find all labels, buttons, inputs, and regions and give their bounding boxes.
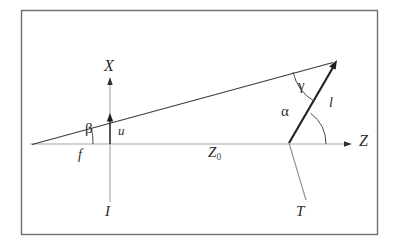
u-vector-arrowhead: [107, 113, 113, 122]
distance-label-z0-main: Z: [208, 144, 216, 160]
angle-label-gamma: γ: [298, 78, 305, 93]
angle-alpha-arc: [311, 113, 326, 144]
diagram-vector-layer: [0, 0, 397, 245]
object-height-label-u: u: [118, 124, 125, 137]
angle-label-alpha: α: [281, 104, 289, 119]
focal-length-label-f: f: [78, 148, 82, 162]
target-line-thin-segment: [289, 143, 306, 200]
distance-label-z0-subscript: 0: [217, 152, 222, 162]
length-label-l: l: [329, 96, 333, 110]
angle-label-beta: β: [85, 121, 93, 136]
figure-border-frame: [22, 11, 378, 235]
axis-label-z: Z: [359, 133, 368, 149]
diagram-canvas: X Z I T f u l Z0 β α γ: [0, 0, 397, 245]
target-line-label-t: T: [296, 204, 304, 219]
x-axis-arrowhead: [107, 77, 112, 85]
z-axis-arrowhead: [344, 141, 352, 146]
image-line-label-i: I: [105, 204, 110, 219]
distance-label-z0: Z0: [208, 145, 221, 160]
target-line-arrowhead: [329, 60, 337, 70]
axis-label-x: X: [104, 58, 114, 74]
